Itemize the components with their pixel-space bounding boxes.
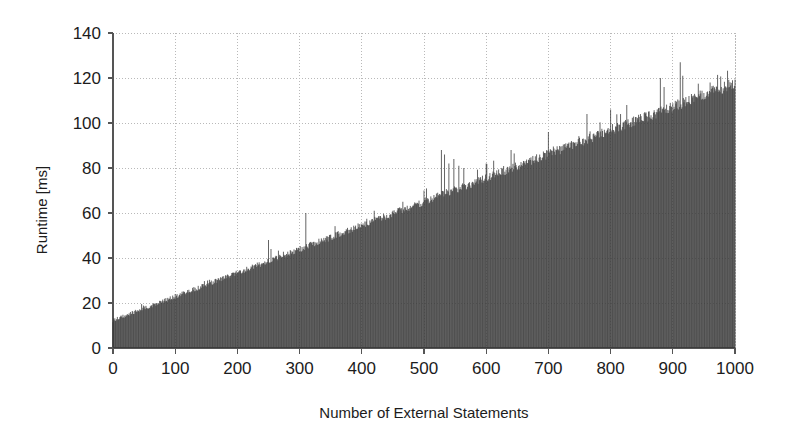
y-tick-label: 120 [73, 69, 101, 88]
x-tick-label: 200 [223, 359, 251, 378]
y-tick-label: 0 [92, 339, 101, 358]
x-tick-label: 700 [534, 359, 562, 378]
x-tick-label: 900 [659, 359, 687, 378]
y-axis-title: Runtime [ms] [33, 166, 50, 254]
x-tick-label: 100 [161, 359, 189, 378]
x-tick-label: 600 [472, 359, 500, 378]
y-tick-label: 140 [73, 24, 101, 43]
chart-figure: 020406080100120140 010020030040050060070… [0, 0, 789, 433]
y-tick-label: 60 [82, 204, 101, 223]
x-tick-label: 300 [285, 359, 313, 378]
x-tick-label: 1000 [716, 359, 754, 378]
y-tick-label: 100 [73, 114, 101, 133]
x-tick-label: 0 [108, 359, 117, 378]
x-tick-label: 800 [596, 359, 624, 378]
y-tick-label: 80 [82, 159, 101, 178]
x-tick-label: 500 [410, 359, 438, 378]
y-tick-label: 20 [82, 294, 101, 313]
chart-canvas: 020406080100120140 010020030040050060070… [0, 0, 789, 433]
x-axis-title: Number of External Statements [319, 404, 528, 421]
x-tick-label: 400 [348, 359, 376, 378]
y-tick-label: 40 [82, 249, 101, 268]
